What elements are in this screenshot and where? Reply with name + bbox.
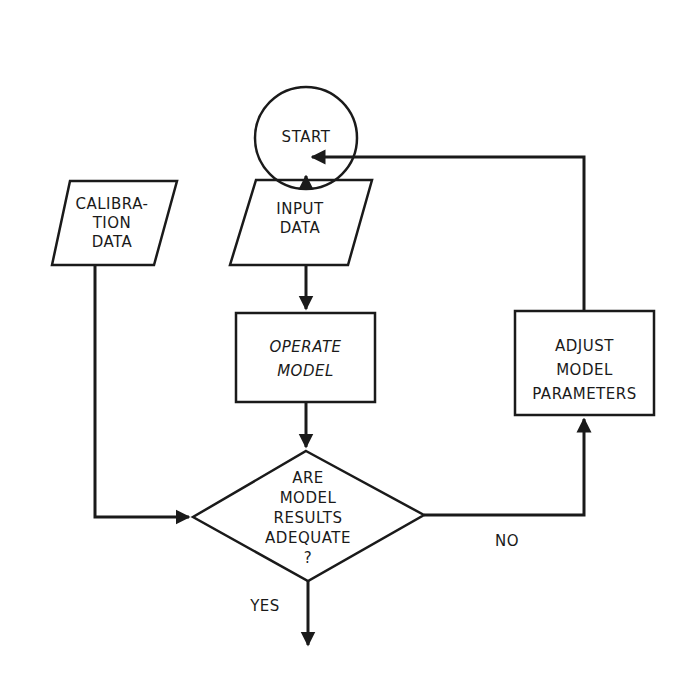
adjust-params-node-label: ADJUST MODEL PARAMETERS: [515, 334, 654, 406]
edge-calibration-to-decision: [95, 265, 189, 517]
operate-model-node-label: OPERATE MODEL: [236, 335, 375, 383]
edge-decision-no-to-adjust: [424, 419, 584, 515]
start-node-label: START: [266, 128, 346, 147]
edge-label-yes: YES: [240, 597, 290, 616]
calibration-data-node-label: CALIBRA- TION DATA: [62, 195, 162, 252]
edge-label-no: NO: [482, 532, 532, 551]
input-data-node-label: INPUT DATA: [250, 200, 350, 238]
decision-node-label: ARE MODEL RESULTS ADEQUATE ?: [238, 468, 378, 568]
